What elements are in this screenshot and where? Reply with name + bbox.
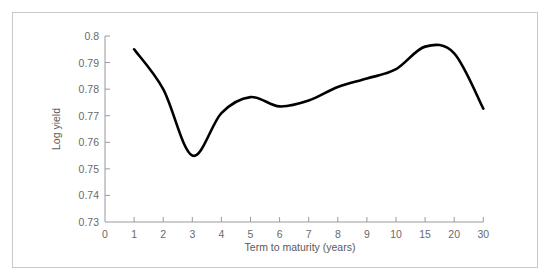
x-tick-label: 9 [364,228,370,240]
yield-curve-line [134,45,483,156]
y-tick-label: 0.8 [84,30,99,42]
y-tick-label: 0.79 [79,57,100,69]
x-tick-label: 20 [448,228,460,240]
y-tick-label: 0.73 [79,216,100,228]
y-tick-label: 0.75 [79,163,100,175]
y-tick-label: 0.77 [79,110,100,122]
y-tick-label: 0.76 [79,136,100,148]
x-tick-label: 2 [160,228,166,240]
x-axis: 012345678910152030 [102,217,489,240]
x-tick-label: 8 [335,228,341,240]
x-tick-label: 30 [477,228,489,240]
line-chart: 0.730.740.750.760.770.780.790.8 01234567… [0,0,549,278]
x-tick-label: 7 [306,228,312,240]
x-tick-label: 4 [218,228,224,240]
x-tick-label: 1 [131,228,137,240]
x-tick-label: 10 [390,228,402,240]
y-tick-label: 0.78 [79,83,100,95]
x-tick-label: 15 [419,228,431,240]
x-axis-title: Term to maturity (years) [245,241,356,253]
x-tick-label: 5 [248,228,254,240]
x-tick-label: 0 [102,228,108,240]
x-tick-label: 3 [189,228,195,240]
x-tick-label: 6 [277,228,283,240]
y-tick-label: 0.74 [79,189,100,201]
y-axis: 0.730.740.750.760.770.780.790.8 [79,30,110,228]
y-axis-title: Log yield [50,108,62,150]
